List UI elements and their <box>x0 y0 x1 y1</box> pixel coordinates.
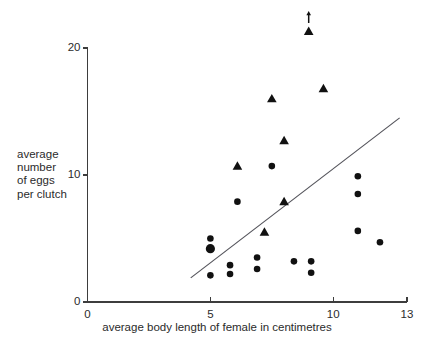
data-point-triangle <box>319 84 329 92</box>
data-point-triangle <box>279 136 289 144</box>
off-scale-arrow-head-icon <box>306 11 311 15</box>
y-axis-label: average number of eggs per clutch <box>17 148 89 201</box>
data-point-triangle <box>267 94 277 102</box>
data-point-circle <box>377 239 384 246</box>
data-point-circle <box>254 254 261 261</box>
y-tick-label: 0 <box>43 296 81 308</box>
data-point-circle <box>207 235 214 242</box>
x-axis-label: average body length of female in centime… <box>0 322 434 334</box>
data-point-circle <box>308 258 315 265</box>
x-tick-label: 13 <box>387 309 427 321</box>
data-point-circle <box>207 272 214 279</box>
data-point-circle <box>355 191 362 198</box>
x-tick-label: 5 <box>190 309 230 321</box>
data-point-circle <box>234 198 241 205</box>
annotations <box>306 11 311 23</box>
data-point-circle <box>227 262 234 269</box>
data-point-triangle <box>260 227 270 235</box>
x-tick-label: 10 <box>313 309 353 321</box>
data-point-circle <box>355 228 362 235</box>
regression-line <box>191 118 400 278</box>
data-point-circle <box>206 244 215 253</box>
data-point-circle <box>254 266 261 273</box>
data-point-triangle <box>304 27 314 35</box>
data-point-circle <box>308 269 315 276</box>
data-point-circle <box>355 173 362 180</box>
x-tick-label: 0 <box>68 309 108 321</box>
data-markers <box>206 27 383 279</box>
trend-line <box>191 118 400 278</box>
data-point-triangle <box>279 197 289 205</box>
scatter-plot-figure: 01020 051013 average number of eggs per … <box>0 0 434 348</box>
data-point-circle <box>291 258 298 265</box>
data-point-circle <box>269 163 276 170</box>
data-point-triangle <box>233 161 243 169</box>
y-tick-label: 20 <box>43 42 81 54</box>
data-point-circle <box>227 271 234 278</box>
